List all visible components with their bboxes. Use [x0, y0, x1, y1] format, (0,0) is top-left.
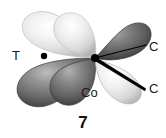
label-carbon-lower: C: [149, 82, 159, 95]
label-carbon-upper: C: [149, 40, 159, 53]
figure-number: 7: [0, 114, 166, 131]
orbital-center-node: [91, 54, 99, 62]
radical-dot: [41, 53, 47, 59]
orbital-figure: T Co C C 7: [0, 0, 166, 138]
lobe-upper-right: [95, 23, 151, 60]
label-co: Co: [81, 86, 98, 99]
label-t: T: [12, 49, 20, 62]
